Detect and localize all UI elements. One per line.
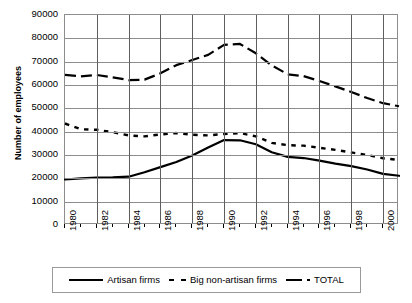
gridline-vertical: [160, 15, 161, 223]
chart-legend: Artisan firms Big non-artisan firms TOTA…: [52, 267, 361, 293]
legend-label-big-non-artisan-firms: Big non-artisan firms: [190, 275, 277, 285]
x-tick-mark-minor: [207, 224, 208, 227]
legend-swatch-dotted-line-icon: [169, 279, 186, 282]
x-tick-label: 1994: [291, 210, 301, 231]
x-tick-label: 1984: [132, 210, 142, 231]
x-tick-label: 2000: [386, 210, 396, 231]
x-tick-mark-minor: [334, 224, 335, 227]
x-tick-label: 1980: [68, 210, 78, 231]
gridline-vertical: [288, 15, 289, 223]
gridline-horizontal: [65, 108, 397, 109]
y-tick-label: 80000: [12, 32, 58, 42]
gridline-vertical: [192, 15, 193, 223]
y-tick-label: 20000: [12, 172, 58, 182]
x-tick-label: 1990: [227, 210, 237, 231]
y-tick-label: 30000: [12, 149, 58, 159]
gridline-horizontal: [65, 155, 397, 156]
chart-figure: Number of employees 01000020000300004000…: [0, 0, 412, 303]
x-tick-mark: [223, 224, 224, 228]
gridline-horizontal: [65, 85, 397, 86]
x-tick-mark-minor: [175, 224, 176, 227]
gridline-vertical: [351, 15, 352, 223]
x-tick-mark: [64, 224, 65, 228]
x-tick-label: 1998: [354, 210, 364, 231]
gridline-horizontal: [65, 62, 397, 63]
series-total: [65, 44, 399, 106]
x-tick-mark: [318, 224, 319, 228]
y-tick-label: 60000: [12, 79, 58, 89]
gridline-vertical: [129, 15, 130, 223]
legend-label-artisan-firms: Artisan firms: [107, 275, 160, 285]
x-tick-mark-minor: [239, 224, 240, 227]
x-tick-mark: [159, 224, 160, 228]
series-canvas: [65, 15, 399, 225]
gridline-vertical: [383, 15, 384, 223]
x-tick-mark: [96, 224, 97, 228]
gridline-horizontal: [65, 202, 397, 203]
gridline-vertical: [319, 15, 320, 223]
x-tick-mark-minor: [112, 224, 113, 227]
gridline-horizontal: [65, 132, 397, 133]
legend-item-artisan-firms: Artisan firms: [69, 275, 160, 285]
gridline-vertical: [224, 15, 225, 223]
x-tick-label: 1988: [195, 210, 205, 231]
legend-item-total: TOTAL: [286, 275, 344, 285]
y-axis-tick-labels: 0100002000030000400005000060000700008000…: [10, 0, 58, 303]
y-tick-label: 90000: [12, 9, 58, 19]
x-tick-mark-minor: [303, 224, 304, 227]
y-tick-label: 50000: [12, 102, 58, 112]
x-tick-label: 1992: [259, 210, 269, 231]
x-tick-mark: [350, 224, 351, 228]
x-tick-label: 1982: [100, 210, 110, 231]
x-tick-label: 1986: [163, 210, 173, 231]
x-tick-mark: [191, 224, 192, 228]
series-artisan-firms: [65, 140, 399, 179]
x-tick-mark: [287, 224, 288, 228]
y-tick-label: 10000: [12, 196, 58, 206]
y-tick-label: 70000: [12, 56, 58, 66]
legend-label-total: TOTAL: [314, 275, 344, 285]
x-tick-mark: [255, 224, 256, 228]
x-tick-mark-minor: [271, 224, 272, 227]
gridline-vertical: [256, 15, 257, 223]
x-tick-mark: [128, 224, 129, 228]
legend-swatch-dashed-line-icon: [286, 279, 310, 282]
legend-swatch-solid-line-icon: [69, 279, 103, 281]
x-tick-mark: [382, 224, 383, 228]
gridline-horizontal: [65, 178, 397, 179]
legend-item-big-non-artisan-firms: Big non-artisan firms: [169, 275, 277, 285]
gridline-horizontal: [65, 38, 397, 39]
gridline-vertical: [97, 15, 98, 223]
x-tick-mark-minor: [366, 224, 367, 227]
plot-area: [64, 14, 398, 224]
x-tick-mark-minor: [80, 224, 81, 227]
x-tick-mark-minor: [144, 224, 145, 227]
x-tick-label: 1996: [322, 210, 332, 231]
y-tick-label: 0: [12, 219, 58, 229]
y-tick-label: 40000: [12, 126, 58, 136]
